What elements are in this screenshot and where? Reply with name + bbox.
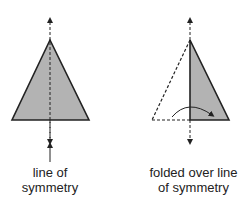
right-caption: folded over line of symmetry [140, 165, 247, 195]
right-figure [152, 20, 229, 142]
folded-half-triangle [190, 40, 229, 120]
left-caption: line of symmetry [0, 165, 100, 195]
right-caption-line1: folded over line [140, 165, 247, 180]
left-figure [12, 20, 89, 162]
right-caption-line2: of symmetry [140, 180, 247, 195]
left-caption-line1: line of [0, 165, 100, 180]
left-caption-line2: symmetry [0, 180, 100, 195]
